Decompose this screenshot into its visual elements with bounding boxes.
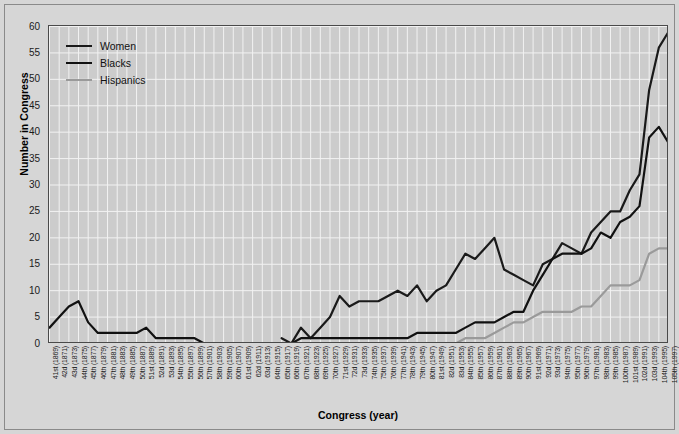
x-tick-label: 104th (1995)	[661, 346, 668, 383]
x-tick-label: 99th (1985)	[612, 346, 619, 380]
x-tick-label: 41st (1869)	[52, 346, 59, 379]
x-tick-label: 46th (1879)	[100, 346, 107, 380]
x-tick-label: 76th (1939)	[390, 346, 397, 380]
x-tick-label: 86th (1959)	[487, 346, 494, 380]
x-tick-label: 72d (1931)	[351, 346, 358, 378]
legend-label-hispanics: Hispanics	[100, 74, 146, 86]
x-tick-label: 98th (1983)	[603, 346, 610, 380]
y-axis-tick-labels: 051015202530354045505560	[0, 25, 44, 343]
x-tick-label: 50th (1887)	[139, 346, 146, 380]
x-tick-label: 105th (1997)	[671, 346, 678, 383]
y-tick-label: 20	[29, 231, 40, 242]
y-tick-label: 25	[29, 205, 40, 216]
x-tick-label: 73d (1933)	[361, 346, 368, 378]
x-tick-label: 43d (1873)	[71, 346, 78, 378]
legend-swatch-blacks	[66, 62, 92, 64]
chart-legend: Women Blacks Hispanics	[66, 37, 196, 88]
x-tick-label: 69th (1925)	[322, 346, 329, 380]
x-tick-label: 101st (1989)	[632, 346, 639, 383]
x-tick-label: 62d (1911)	[255, 346, 262, 377]
legend-item-hispanics: Hispanics	[66, 71, 196, 88]
x-tick-label: 103d (1993)	[651, 346, 658, 382]
x-tick-label: 92d (1971)	[545, 346, 552, 378]
x-tick-label: 56th (1899)	[197, 346, 204, 380]
x-tick-label: 55th (1897)	[187, 346, 194, 380]
x-tick-label: 91st (1969)	[535, 346, 542, 379]
x-tick-label: 52d (1891)	[158, 346, 165, 378]
y-tick-label: 40	[29, 126, 40, 137]
legend-label-women: Women	[100, 40, 136, 52]
x-tick-label: 79th (1945)	[419, 346, 426, 380]
x-tick-label: 70th (1927)	[332, 346, 339, 380]
x-tick-label: 74th (1935)	[371, 346, 378, 380]
x-tick-label: 53d (1893)	[168, 346, 175, 378]
plot-wrapper: Women Blacks Hispanics	[48, 25, 668, 343]
legend-item-women: Women	[66, 37, 196, 54]
y-tick-label: 35	[29, 152, 40, 163]
x-tick-label: 48th (1883)	[119, 346, 126, 380]
y-tick-label: 5	[35, 311, 40, 322]
x-tick-label: 88th (1963)	[506, 346, 513, 380]
x-tick-label: 59th (1905)	[226, 346, 233, 380]
x-tick-label: 90th (1967)	[525, 346, 532, 380]
x-tick-label: 78th (1943)	[409, 346, 416, 380]
x-tick-label: 77th (1941)	[400, 346, 407, 380]
x-tick-label: 61st (1909)	[245, 346, 252, 379]
x-tick-label: 60th (1907)	[235, 346, 242, 380]
y-tick-label: 15	[29, 258, 40, 269]
x-tick-label: 54th (1895)	[177, 346, 184, 380]
y-tick-label: 45	[29, 99, 40, 110]
y-tick-label: 60	[29, 20, 40, 31]
x-tick-label: 102d (1991)	[641, 346, 648, 382]
y-tick-label: 50	[29, 73, 40, 84]
legend-swatch-hispanics	[66, 79, 92, 81]
x-tick-label: 57th (1901)	[206, 346, 213, 380]
y-tick-label: 55	[29, 46, 40, 57]
x-tick-label: 47th (1881)	[110, 346, 117, 380]
x-tick-label: 87th (1961)	[496, 346, 503, 380]
x-tick-label: 58th (1903)	[216, 346, 223, 380]
x-tick-label: 71st (1929)	[342, 346, 349, 379]
legend-item-blacks: Blacks	[66, 54, 196, 71]
x-axis-tick-labels: 41st (1869)42d (1871)43d (1873)44th (187…	[48, 346, 668, 406]
x-tick-label: 83d (1953)	[458, 346, 465, 378]
chart-figure: Number in Congress 051015202530354045505…	[0, 0, 679, 434]
x-tick-label: 66th (1919)	[293, 346, 300, 380]
x-tick-label: 64th (1915)	[274, 346, 281, 380]
x-tick-label: 94th (1975)	[564, 346, 571, 380]
x-tick-label: 82d (1951)	[448, 346, 455, 378]
x-tick-label: 95th (1977)	[574, 346, 581, 380]
x-tick-label: 63d (1913)	[264, 346, 271, 378]
x-tick-label: 42d (1871)	[61, 346, 68, 378]
y-tick-label: 30	[29, 179, 40, 190]
x-tick-label: 96th (1979)	[583, 346, 590, 380]
x-tick-label: 75th (1937)	[380, 346, 387, 380]
x-tick-label: 45th (1877)	[90, 346, 97, 380]
legend-swatch-women	[66, 45, 92, 47]
x-axis-title: Congress (year)	[48, 409, 668, 421]
x-tick-label: 49th (1885)	[129, 346, 136, 380]
y-tick-label: 0	[35, 337, 40, 348]
x-tick-label: 97th (1981)	[593, 346, 600, 380]
x-tick-label: 65th (1917)	[284, 346, 291, 380]
x-tick-label: 84th (1955)	[467, 346, 474, 380]
x-tick-label: 85th (1957)	[477, 346, 484, 380]
x-tick-label: 51st (1889)	[148, 346, 155, 379]
x-tick-label: 80th (1947)	[429, 346, 436, 380]
legend-label-blacks: Blacks	[100, 57, 131, 69]
y-tick-label: 10	[29, 284, 40, 295]
x-tick-label: 100th (1987)	[622, 346, 629, 383]
x-tick-label: 67th (1921)	[303, 346, 310, 380]
x-tick-label: 44th (1875)	[81, 346, 88, 380]
x-tick-label: 93d (1973)	[554, 346, 561, 378]
x-tick-label: 89th (1965)	[516, 346, 523, 380]
x-tick-label: 68th (1923)	[313, 346, 320, 380]
x-tick-label: 81st (1949)	[438, 346, 445, 379]
